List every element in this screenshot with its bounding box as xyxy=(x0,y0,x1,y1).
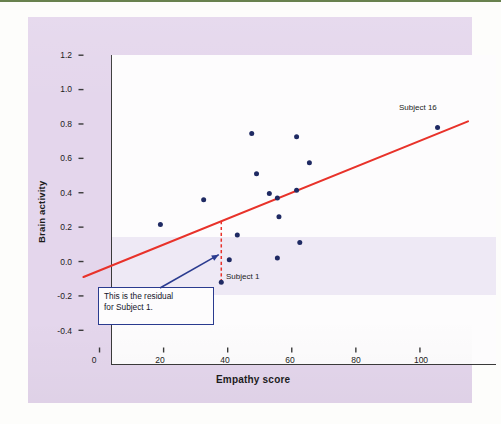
page-top-rule xyxy=(0,0,501,2)
xtick-label: 0 xyxy=(82,355,106,365)
xtick-label: 80 xyxy=(344,355,368,365)
ytick-label: 1.0 xyxy=(46,84,72,94)
residual-callout-box: This is the residual for Subject 1. xyxy=(98,287,214,325)
xtick-label: 60 xyxy=(278,355,302,365)
ytick-label: -0.2 xyxy=(43,291,72,301)
ytick-label: 0.2 xyxy=(46,222,72,232)
point-label-subject16: Subject 16 xyxy=(399,103,437,112)
x-axis-title: Empathy score xyxy=(216,374,290,385)
xtick-label: 40 xyxy=(213,355,237,365)
xtick-label: 20 xyxy=(148,355,172,365)
ytick-label: 1.2 xyxy=(46,50,72,60)
ytick-label: 0.4 xyxy=(46,188,72,198)
callout-line-2: for Subject 1. xyxy=(104,302,208,313)
xtick-label: 100 xyxy=(408,355,434,365)
point-label-subject1: Subject 1 xyxy=(226,272,259,281)
ytick-label: 0.8 xyxy=(46,119,72,129)
figure-panel xyxy=(28,17,472,403)
callout-line-1: This is the residual xyxy=(104,291,208,302)
ytick-label: 0.6 xyxy=(46,153,72,163)
y-axis-title: Brain activity xyxy=(36,181,47,243)
ytick-label: -0.4 xyxy=(43,326,72,336)
ytick-label: 0.0 xyxy=(46,257,72,267)
